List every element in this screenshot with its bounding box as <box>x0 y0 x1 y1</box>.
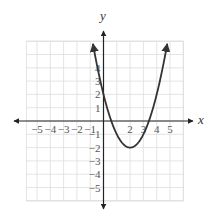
x-tick-label: 4 <box>154 123 160 135</box>
x-tick-label: −4 <box>44 123 56 135</box>
x-tick-label: −3 <box>58 123 70 135</box>
parabola-graph: xy−5−4−3−2−123454321−1−2−3−4−5 <box>0 0 221 216</box>
x-tick-label: 2 <box>127 123 133 135</box>
y-tick-label: 1 <box>95 102 101 114</box>
x-tick-label: −2 <box>71 123 83 135</box>
y-tick-label: −4 <box>89 168 101 180</box>
x-axis-label: x <box>197 112 204 127</box>
y-tick-label: −5 <box>89 182 101 194</box>
y-tick-label: −1 <box>89 128 101 140</box>
y-axis-label: y <box>98 8 106 23</box>
y-tick-label: −2 <box>89 142 101 154</box>
x-tick-label: −5 <box>31 123 43 135</box>
y-tick-label: −3 <box>89 155 101 167</box>
y-tick-label: 2 <box>95 88 101 100</box>
x-tick-label: 5 <box>167 123 173 135</box>
